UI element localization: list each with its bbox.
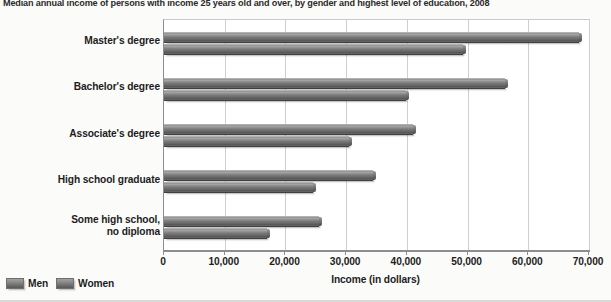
bar-men-4	[164, 216, 319, 227]
x-tick-label-7: 70,000	[573, 256, 604, 267]
x-tick-label-2: 20,000	[269, 256, 300, 267]
x-tick-mark	[406, 251, 407, 255]
bar-men-3	[164, 170, 373, 181]
y-axis-label-0: Master's degree	[84, 35, 160, 47]
bar-end-cap	[406, 91, 409, 100]
bar-end-cap	[373, 171, 376, 180]
y-axis-label-1: Bachelor's degree	[74, 81, 160, 93]
x-tick-mark	[467, 251, 468, 255]
bar-women-1	[164, 90, 406, 101]
bar-end-cap	[313, 183, 316, 192]
legend-label: Men	[28, 278, 48, 289]
gridline	[407, 20, 408, 251]
chart-title: Median annual income of persons with inc…	[3, 0, 609, 9]
x-tick-mark	[588, 251, 589, 255]
x-tick-mark	[224, 251, 225, 255]
legend-item-men: Men	[6, 278, 48, 289]
legend-item-women: Women	[56, 278, 114, 289]
bar-end-cap	[267, 229, 270, 238]
y-axis-label-3: High school graduate	[58, 174, 160, 186]
x-tick-label-0: 0	[160, 256, 166, 267]
gridline	[528, 20, 529, 251]
bar-end-cap	[463, 45, 466, 54]
bar-women-4	[164, 228, 267, 239]
bar-end-cap	[505, 79, 508, 88]
bar-end-cap	[579, 33, 582, 42]
legend-swatch-icon	[6, 278, 24, 289]
x-tick-mark	[527, 251, 528, 255]
bar-men-1	[164, 78, 505, 89]
x-tick-label-3: 30,000	[330, 256, 361, 267]
x-tick-mark	[345, 251, 346, 255]
bar-end-cap	[349, 137, 352, 146]
x-tick-label-4: 40,000	[391, 256, 422, 267]
bar-end-cap	[413, 125, 416, 134]
x-tick-mark	[284, 251, 285, 255]
bar-women-3	[164, 182, 313, 193]
chart-legend: MenWomen	[6, 278, 114, 289]
bar-women-0	[164, 44, 463, 55]
bar-men-2	[164, 124, 413, 135]
plot-area	[163, 19, 590, 251]
x-tick-label-6: 60,000	[512, 256, 543, 267]
gridline	[589, 20, 590, 251]
x-tick-label-5: 50,000	[451, 256, 482, 267]
legend-swatch-icon	[56, 278, 74, 289]
x-tick-mark	[163, 251, 164, 255]
bar-end-cap	[319, 217, 322, 226]
y-axis-label-2: Associate's degree	[69, 128, 160, 140]
chart-figure: Median annual income of persons with inc…	[0, 0, 611, 302]
bar-women-2	[164, 136, 349, 147]
x-axis-title: Income (in dollars)	[163, 274, 588, 285]
legend-label: Women	[78, 278, 114, 289]
y-axis-label-4: Some high school, no diploma	[71, 214, 160, 238]
gridline	[468, 20, 469, 251]
x-tick-label-1: 10,000	[208, 256, 239, 267]
bar-men-0	[164, 32, 579, 43]
